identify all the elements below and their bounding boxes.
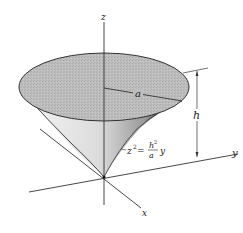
eq-equals: = — [137, 146, 145, 156]
diagram-canvas: a h z y x z 2 = h 2 a y — [0, 0, 243, 233]
x-axis-label: x — [142, 208, 147, 218]
eq-rhs-var: y — [159, 146, 166, 156]
eq-num-exp: 2 — [154, 139, 157, 145]
z-axis-label: z — [100, 12, 106, 22]
h-arrow-top — [196, 71, 199, 76]
y-axis-label: y — [231, 147, 238, 158]
y-axis — [29, 154, 238, 192]
height-label: h — [193, 109, 200, 122]
origin-point — [103, 176, 106, 179]
eq-den: a — [149, 151, 154, 160]
h-ext-top — [183, 68, 208, 73]
eq-lhs: z — [126, 146, 132, 156]
paraboloid-diagram: a h z y x z 2 = h 2 a y — [0, 0, 243, 233]
radius-label: a — [135, 88, 141, 99]
h-arrow-bottom — [196, 152, 199, 157]
